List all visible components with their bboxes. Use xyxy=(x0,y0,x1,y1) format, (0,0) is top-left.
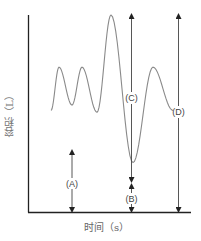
volume-curve xyxy=(51,15,173,163)
label-d: (D) xyxy=(172,107,185,117)
annotation-d: (D) xyxy=(172,16,185,210)
x-axis-label: 时间（s） xyxy=(84,219,164,234)
annotation-a: (A) xyxy=(66,152,78,210)
label-a: (A) xyxy=(66,179,78,189)
annotation-b: (B) xyxy=(126,186,138,210)
y-axis-label: 容积（L） xyxy=(2,82,18,146)
label-b: (B) xyxy=(126,194,138,204)
spirometry-diagram: (A) (C) (B) (D) xyxy=(0,0,201,241)
annotation-c: (C) xyxy=(125,16,138,180)
label-c: (C) xyxy=(125,93,138,103)
